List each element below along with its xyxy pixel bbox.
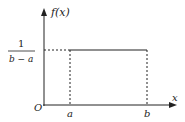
- tick-label-a: a: [67, 108, 73, 119]
- uniform-pdf-diagram: f(x) x O a b 1 b − a: [0, 0, 185, 122]
- y-axis-label: f(x): [50, 6, 70, 19]
- x-axis-label: x: [172, 92, 178, 103]
- density-numerator: 1: [18, 38, 24, 49]
- origin-label: O: [34, 102, 42, 113]
- tick-label-b: b: [144, 108, 150, 119]
- y-axis-arrow-icon: [41, 8, 47, 16]
- density-denominator: b − a: [9, 54, 33, 64]
